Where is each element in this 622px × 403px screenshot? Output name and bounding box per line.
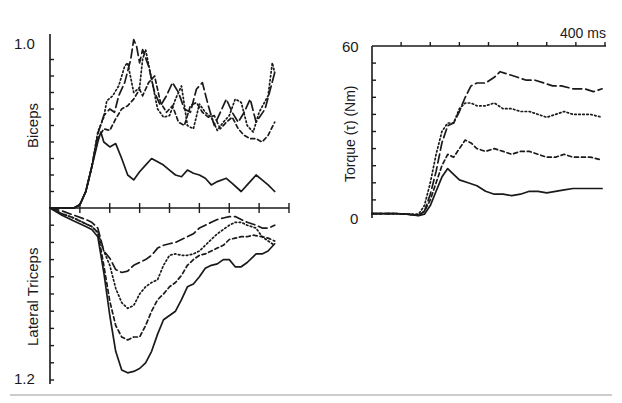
biceps-curves <box>50 40 275 208</box>
biceps-tick-1.0: 1.0 <box>14 35 35 52</box>
torque-tick-60: 60 <box>342 38 359 55</box>
torque-curves <box>372 72 602 216</box>
biceps-label: Biceps <box>24 103 41 148</box>
curve-solid <box>50 208 275 373</box>
curve-dash-long <box>50 208 275 273</box>
triceps-curves <box>50 208 275 373</box>
curve-dash-long <box>50 40 275 208</box>
curve-dash-short <box>372 140 602 215</box>
curve-dotted <box>50 208 275 308</box>
curve-dotted <box>50 50 275 208</box>
curve-solid <box>372 169 602 216</box>
curve-dash-short <box>50 76 275 208</box>
time-scale-label: 400 ms <box>560 25 606 41</box>
curve-dash-short <box>50 208 275 340</box>
lateral-triceps-label: Lateral Triceps <box>24 248 41 346</box>
torque-tick-0: 0 <box>350 210 358 227</box>
curve-dotted <box>372 103 602 214</box>
emg-torque-figure: 1.0 1.2 Biceps Lateral Triceps 60 0 400 … <box>0 0 622 403</box>
triceps-tick-1.2: 1.2 <box>14 370 35 387</box>
curve-dash-long <box>372 72 602 216</box>
torque-axis-label: Torque (τ) (Nm) <box>342 85 358 182</box>
biceps-triceps-axes <box>50 34 289 384</box>
